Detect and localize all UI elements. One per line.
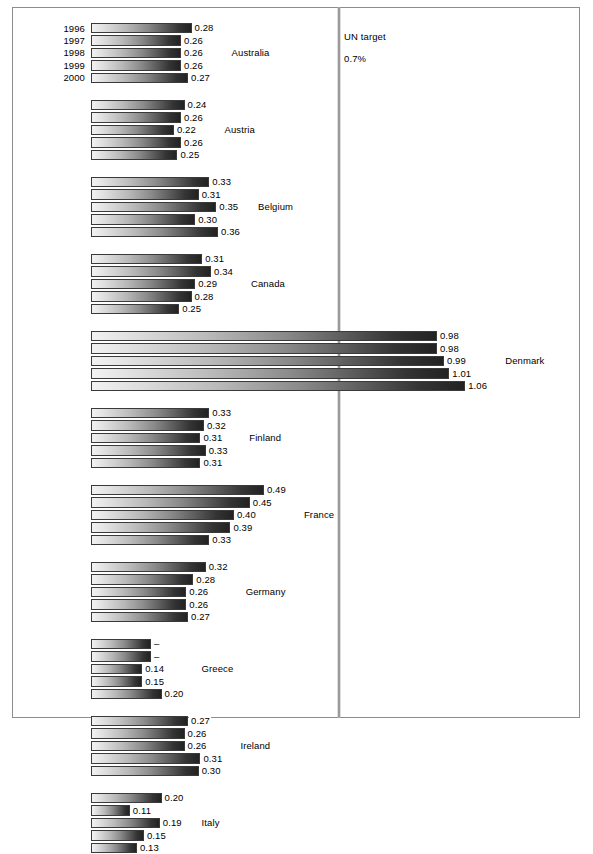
bar-row: 0.20 [13,688,579,700]
bar-value-label: 0.30 [196,214,218,225]
country-label: Canada [251,278,285,289]
country-group: 0.320.280.260.260.27Germany [13,561,579,623]
bar [91,214,195,224]
country-group: 0.330.310.350.300.36Belgium [13,176,579,238]
bar-value-label: 0.26 [187,599,209,610]
bar [91,562,206,572]
country-label: Australia [232,47,270,58]
bar [91,23,192,33]
bar-row: 0.29 [13,278,579,290]
bar-row: – [13,638,579,650]
bar-row: 0.25 [13,303,579,315]
bar [91,279,195,289]
bar-value-label: 0.13 [138,842,160,853]
bar-row: 0.22 [13,124,579,136]
bar-value-label: 0.27 [189,72,211,83]
bar-value-label: 0.28 [194,574,216,585]
bar-value-label: 0.28 [193,22,215,33]
bar-value-label: – [152,638,160,649]
bar [91,497,250,507]
bar [91,522,230,532]
bar [91,689,162,699]
bar [91,266,211,276]
bar-value-label: 0.33 [210,534,232,545]
bar [91,48,181,58]
bar-value-label: 0.33 [210,407,232,418]
bar-value-label: 0.33 [210,176,232,187]
bar-value-label: 0.22 [175,124,197,135]
year-label: 1998 [45,47,85,58]
bar-row: 0.13 [13,842,579,854]
bar [91,651,151,661]
bar-row: 0.26 [13,136,579,148]
bar-row: 0.31 [13,752,579,764]
country-label: Italy [202,817,220,828]
bar-value-label: 0.25 [178,149,200,160]
bar-row: 0.31 [13,188,579,200]
bar-row: 0.35 [13,201,579,213]
bar-value-label: 0.32 [205,420,227,431]
bar-row: 0.19 [13,817,579,829]
country-label: Germany [246,586,286,597]
bar-value-label: 0.26 [182,47,204,58]
bar [91,35,181,45]
bar-row: 0.32 [13,561,579,573]
country-group: 0.310.340.290.280.25Canada [13,253,579,315]
bar [91,793,162,803]
bar [91,753,200,763]
bar [91,150,177,160]
bar-value-label: 0.31 [203,253,225,264]
bar [91,676,142,686]
bar [91,664,142,674]
bar-row: 0.33 [13,407,579,419]
bar [91,612,188,622]
bar-value-label: 0.34 [212,266,234,277]
country-group: 0.980.980.991.011.06Denmark [13,330,579,392]
bar [91,73,188,83]
bar-value-label: 0.24 [186,99,208,110]
bar-value-label: 0.40 [235,509,257,520]
country-label: France [304,509,334,520]
bar [91,805,130,815]
bar [91,485,264,495]
bar-value-label: 0.35 [217,201,239,212]
bar [91,227,218,237]
bar-value-label: 0.32 [207,561,229,572]
bar-row: 0.28 [13,573,579,585]
bar [91,60,181,70]
bar [91,408,209,418]
bar-value-label: 0.33 [207,445,229,456]
bar [91,843,137,853]
bar [91,766,199,776]
bar-value-label: 0.39 [231,522,253,533]
bar [91,830,144,840]
bar [91,137,181,147]
bar [91,254,202,264]
bar [91,574,193,584]
year-label: 1996 [45,23,85,34]
bar-value-label: 1.06 [466,380,488,391]
country-label: Finland [249,432,281,443]
bar-row: 0.33 [13,176,579,188]
chart-frame: UN target 0.7% 19960.2819970.2619980.261… [12,7,580,718]
bar-row: 0.99 [13,355,579,367]
bar-row: 0.27 [13,611,579,623]
bar-row: 20000.27 [13,72,579,84]
bar [91,368,449,378]
bar-value-label: 0.99 [445,355,467,366]
country-group: 19960.2819970.2619980.2619990.2620000.27… [13,22,579,84]
bar-value-label: 0.20 [163,792,185,803]
bar-row: 0.11 [13,804,579,816]
bar-row: 0.34 [13,265,579,277]
country-group: 0.330.320.310.330.31Finland [13,407,579,469]
bar-value-label: 1.01 [450,368,472,379]
bar [91,445,206,455]
year-label: 1997 [45,35,85,46]
bar-row: 0.25 [13,149,579,161]
bar-row: 1.01 [13,367,579,379]
bar [91,510,234,520]
country-group: 0.490.450.400.390.33France [13,484,579,546]
bar-value-label: 0.14 [143,663,165,674]
bar-value-label: 0.29 [196,278,218,289]
bar [91,458,200,468]
